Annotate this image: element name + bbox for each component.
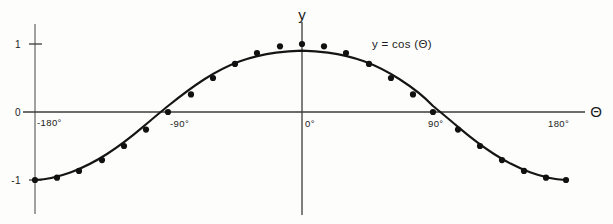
x-tick-label-0: 0° [305,118,315,129]
data-point [430,109,436,115]
data-point [165,109,171,115]
y-tick-label-1: 1 [15,39,21,50]
x-tick-label-180: 180° [548,118,569,129]
y-tick-label-minus-1: -1 [11,175,21,186]
data-point [499,157,505,163]
data-point [277,43,283,49]
data-point [299,41,305,47]
data-point [477,143,483,149]
y-tick-label-0: 0 [15,107,21,118]
plot-canvas: 1 0 -1 -180° -90° 0° 90° 180° y Θ y = co… [0,0,613,224]
data-point [254,50,260,56]
x-tick-label-minus-180: -180° [37,117,62,128]
y-axis-label: y [298,6,306,23]
data-point [188,91,194,97]
data-point [563,177,569,183]
cosine-curve [35,51,566,180]
data-point [410,91,416,97]
data-point [232,61,238,67]
data-point [76,168,82,174]
data-point [366,61,372,67]
data-point [521,168,527,174]
x-tick-label-minus-90: -90° [170,118,189,129]
data-point [343,50,349,56]
data-point [143,127,149,133]
data-point [121,143,127,149]
x-axis-label: Θ [590,103,602,120]
data-point [54,175,60,181]
data-point [32,177,38,183]
data-point [388,75,394,81]
data-point [210,75,216,81]
data-point [543,175,549,181]
data-point [455,127,461,133]
data-point [321,43,327,49]
cosine-graph-figure: 1 0 -1 -180° -90° 0° 90° 180° y Θ y = co… [0,0,613,224]
x-tick-label-90: 90° [428,118,444,129]
data-point [99,157,105,163]
equation-annotation: y = cos (Θ) [372,38,432,50]
